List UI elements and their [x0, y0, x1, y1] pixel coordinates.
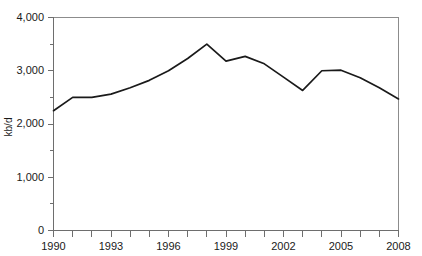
- y-axis-title: kb/d: [3, 118, 14, 137]
- x-tick-label-1993: 1993: [99, 240, 123, 252]
- x-tick-label-2008: 2008: [386, 240, 410, 252]
- line-chart: 4,000 3,000 2,000 1,000 0 kb/d: [0, 0, 422, 256]
- y-tick-label-0: 0: [38, 224, 44, 236]
- y-tick-label-4000: 4,000: [16, 11, 44, 23]
- series-line-kbd: [54, 44, 399, 111]
- x-tick-label-1990: 1990: [41, 240, 65, 252]
- x-tick-label-2002: 2002: [271, 240, 295, 252]
- plot-frame: [54, 18, 399, 231]
- x-tick-label-1996: 1996: [156, 240, 180, 252]
- x-axis-ticks: [54, 231, 399, 237]
- chart-canvas: 4,000 3,000 2,000 1,000 0 kb/d: [0, 0, 422, 256]
- y-tick-label-3000: 3,000: [16, 64, 44, 76]
- y-axis-major-ticks: [48, 18, 54, 231]
- x-tick-label-1999: 1999: [214, 240, 238, 252]
- y-tick-label-1000: 1,000: [16, 171, 44, 183]
- y-tick-label-2000: 2,000: [16, 117, 44, 129]
- x-tick-label-2005: 2005: [329, 240, 353, 252]
